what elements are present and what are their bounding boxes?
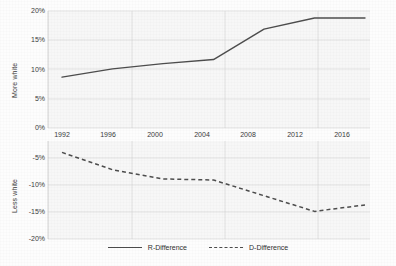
series-line-r-difference <box>62 18 365 77</box>
legend-item-r-difference: R-Difference <box>108 244 187 251</box>
legend-label-d-difference: D-Difference <box>249 244 288 251</box>
legend-dashed-line-icon <box>209 247 243 248</box>
chart-figure: More white 20% 15% 10% 5% 0% Less white … <box>0 0 396 266</box>
legend-solid-line-icon <box>108 247 142 248</box>
series-line-d-difference <box>62 152 365 211</box>
bottom-panel-gridlines <box>48 141 370 239</box>
chart-legend: R-Difference D-Difference <box>0 244 396 251</box>
top-panel-gridlines <box>48 11 370 128</box>
legend-item-d-difference: D-Difference <box>209 244 288 251</box>
legend-label-r-difference: R-Difference <box>148 244 187 251</box>
plot-canvas <box>0 0 396 266</box>
